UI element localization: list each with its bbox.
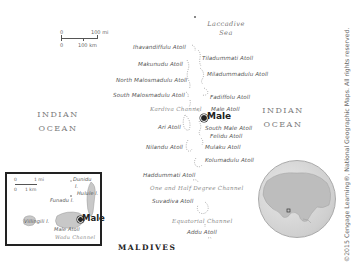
inset-label-male-atoll: Male Atoll xyxy=(54,226,80,232)
locator-globe xyxy=(258,160,336,238)
atoll-label-suvadiva: Suvadiva Atoll xyxy=(152,198,193,204)
capital-label: Male xyxy=(207,111,231,121)
atoll-label-ihavandiffulu: Ihavandiffulu Atoll xyxy=(133,44,186,50)
atoll-label-fadiffolu: Fadiffolu Atoll xyxy=(210,94,250,100)
atoll-label-miladummadulu: Miladummadulu Atoll xyxy=(207,71,268,77)
channel-label-equatorial: Equatorial Channel xyxy=(172,218,233,224)
atoll-label-ari: Ari Atoll xyxy=(158,124,181,130)
inset-label-hulule: Hulule I. xyxy=(77,190,99,196)
inset-capital-label: Male xyxy=(82,213,105,223)
inset-scale-zero-mi: 0 xyxy=(14,177,17,182)
copyright-credit: ©2015 Cengage Learning®, National Geogra… xyxy=(343,28,350,262)
atoll-label-makunudu: Makunudu Atoll xyxy=(138,61,183,67)
globe-land-graphic xyxy=(259,161,335,237)
atoll-label-mulaku: Mulaku Atoll xyxy=(205,144,241,150)
inset-label-dunidu-suffix: I. xyxy=(75,183,78,189)
inset-label-dunidu: Dunidu xyxy=(73,176,92,182)
atoll-label-kolumadulu: Kolumadulu Atoll xyxy=(205,157,254,163)
male-inset-map: 0 1 mi 0 1 km Dunidu I. Hulule I. Funadu… xyxy=(5,172,102,246)
inset-label-wadu-channel: Wadu Channel xyxy=(55,234,95,240)
atoll-label-north-malosmadulu: North Malosmadulu Atoll xyxy=(116,77,187,83)
channel-label-one-and-half-degree: One and Half Degree Channel xyxy=(150,185,244,191)
atoll-label-tiladummati: Tiladummati Atoll xyxy=(202,55,253,61)
inset-scale-line xyxy=(15,184,37,185)
atoll-label-felidu: Felidu Atoll xyxy=(210,133,242,139)
atoll-label-south-malosmadulu: South Malosmadulu Atoll xyxy=(113,92,185,98)
inset-scale-mi: 1 mi xyxy=(34,177,44,182)
inset-scale-km: 1 km xyxy=(25,187,36,192)
inset-label-funadu: Funadu I. xyxy=(50,197,74,203)
channel-label-kardiva: Kardiva Channel xyxy=(150,106,202,112)
maldives-map: Laccadive Sea 0 100 mi 0 100 km INDIAN O… xyxy=(0,0,358,271)
atoll-label-south-male: South Male Atoll xyxy=(205,125,252,131)
atoll-label-haddummati: Haddummati Atoll xyxy=(143,172,195,178)
inset-scale-zero-km: 0 xyxy=(14,187,17,192)
inset-label-villingili: Villingili I. xyxy=(24,218,49,224)
atoll-label-nilandu: Nilandu Atoll xyxy=(146,144,183,150)
atoll-label-addu: Addu Atoll xyxy=(187,229,217,235)
country-title: MALDIVES xyxy=(118,243,176,252)
